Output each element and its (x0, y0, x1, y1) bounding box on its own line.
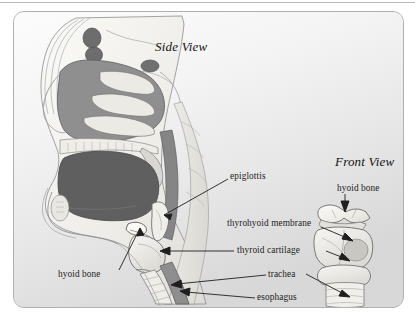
tongue (58, 151, 159, 221)
label-trachea: trachea (268, 270, 296, 279)
thyroid-right-lamina-shadow (344, 239, 368, 261)
label-thyroid-cartilage: thyroid cartilage (237, 246, 300, 255)
cranial-structure-posterior (141, 60, 159, 72)
label-hyoid-bone-front: hyoid bone (337, 184, 380, 193)
genioglossus-attachment (51, 195, 69, 221)
view-title-side: Side View (155, 39, 207, 55)
view-title-front: Front View (335, 154, 394, 170)
label-hyoid-bone-side: hyoid bone (58, 270, 101, 279)
figure-panel: Side View Front View epiglottis thyrohyo… (13, 11, 404, 308)
top-divider-rule (0, 2, 415, 3)
label-esophagus: esophagus (257, 293, 297, 302)
label-thyrohyoid-membrane: thyrohyoid membrane (227, 219, 311, 228)
anatomy-figure: Side View Front View epiglottis thyrohyo… (0, 0, 415, 315)
cranial-structure-upper (83, 28, 101, 48)
label-epiglottis: epiglottis (230, 172, 266, 181)
